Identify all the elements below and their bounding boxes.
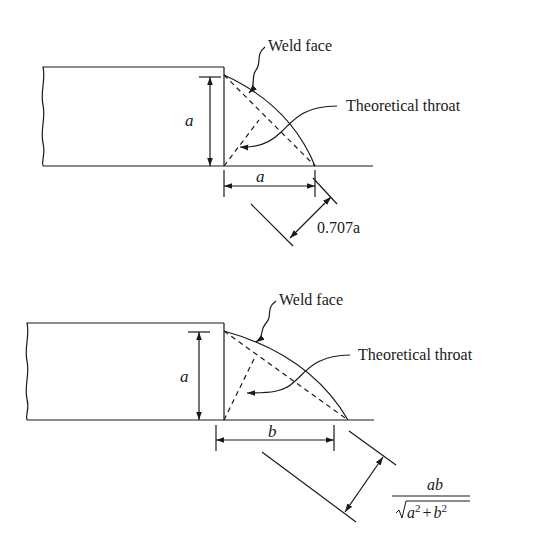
fillet-weld-diagram: Weld face Theoretical throat a a 0.707a … <box>0 0 545 542</box>
formula-numerator: ab <box>427 476 443 493</box>
bottom-throat-line <box>224 359 254 420</box>
bottom-throat-label: Theoretical throat <box>358 346 473 363</box>
top-throat-dimension-label: 0.707a <box>317 219 360 236</box>
formula-denominator: a2+b2 <box>407 502 447 521</box>
bottom-throat-leader <box>247 355 350 393</box>
top-throat-value: 0.707a <box>317 219 360 236</box>
top-leg-vertical-label: a <box>185 111 194 130</box>
top-weld-face-leader <box>249 47 265 93</box>
bottom-dim-throat <box>345 457 383 512</box>
top-throat-line <box>224 120 259 166</box>
bottom-leg-vertical-label: a <box>180 367 189 386</box>
bottom-weld-face-leader <box>256 301 276 342</box>
top-weld-hypotenuse <box>224 75 315 166</box>
top-weld-face-label: Weld face <box>268 37 332 54</box>
top-plate <box>42 67 224 166</box>
bottom-weld-hypotenuse <box>224 331 348 420</box>
bottom-weld-face-label: Weld face <box>279 291 343 308</box>
top-weld-figure <box>42 47 373 246</box>
bottom-weld-figure <box>26 301 396 522</box>
bottom-leg-horizontal-label: b <box>268 422 277 441</box>
bottom-plate <box>26 323 224 420</box>
top-throat-label: Theoretical throat <box>346 97 461 114</box>
bottom-throat-formula: ab a2+b2 <box>392 476 470 521</box>
top-leg-horizontal-label: a <box>256 167 265 186</box>
